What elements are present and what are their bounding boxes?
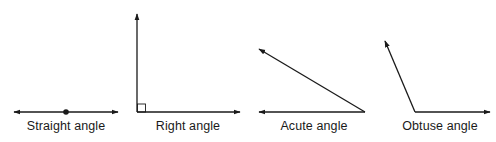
obtuse-angle-ray-upper xyxy=(385,41,415,112)
acute-angle-figure xyxy=(259,49,365,112)
vertex-dot-icon xyxy=(63,109,69,115)
straight-angle-label: Straight angle xyxy=(27,119,106,133)
right-angle-figure xyxy=(137,14,240,112)
right-angle-label: Right angle xyxy=(156,119,220,133)
straight-angle-figure xyxy=(14,109,118,115)
acute-angle-ray-upper xyxy=(259,49,365,112)
obtuse-angle-figure xyxy=(385,41,490,112)
obtuse-angle-label: Obtuse angle xyxy=(402,119,478,133)
right-angle-square-icon xyxy=(138,104,146,112)
acute-angle-label: Acute angle xyxy=(280,119,347,133)
